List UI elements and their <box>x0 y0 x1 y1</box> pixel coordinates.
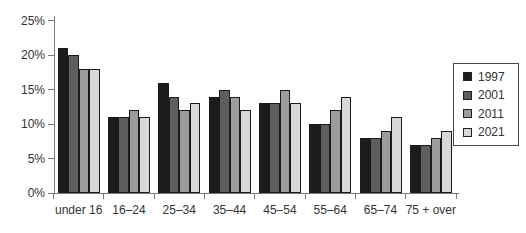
bar <box>89 69 100 193</box>
y-tick-label: 10% <box>8 117 45 131</box>
bar <box>410 145 421 193</box>
bar <box>269 103 280 193</box>
bar-group <box>355 0 405 193</box>
bar <box>370 138 381 193</box>
bar <box>230 97 241 193</box>
y-tick-label: 5% <box>8 152 45 166</box>
x-axis-label: 75 + over <box>396 203 466 217</box>
bar-group <box>54 0 104 193</box>
x-tick <box>254 193 255 199</box>
bar <box>158 83 169 193</box>
bar-group <box>154 0 204 193</box>
legend-item: 2011 <box>463 108 518 120</box>
legend-swatch-icon <box>463 109 472 118</box>
bar <box>290 103 301 193</box>
bar <box>118 117 129 193</box>
bar <box>441 131 452 193</box>
bar <box>309 124 320 193</box>
bar <box>280 90 291 193</box>
y-tick-label: 25% <box>8 14 45 28</box>
bar <box>391 117 402 193</box>
x-tick <box>305 193 306 199</box>
x-tick <box>204 193 205 199</box>
bar <box>190 103 201 193</box>
legend-swatch-icon <box>463 72 472 81</box>
bar <box>79 69 90 193</box>
legend-swatch-icon <box>463 128 472 137</box>
bar-group <box>305 0 355 193</box>
legend-label: 1997 <box>478 71 505 83</box>
legend: 1997200120112021 <box>453 63 519 146</box>
bar <box>431 138 442 193</box>
bar-chart: 0%5%10%15%20%25% under 1616–2425–3435–44… <box>0 0 526 233</box>
bar-group <box>255 0 305 193</box>
bar <box>330 110 341 193</box>
y-tick-label: 20% <box>8 48 45 62</box>
bar <box>381 131 392 193</box>
bar <box>129 110 140 193</box>
y-tick-label: 15% <box>8 83 45 97</box>
bar <box>169 97 180 193</box>
legend-label: 2021 <box>478 126 505 138</box>
bar <box>58 48 69 193</box>
x-tick <box>154 193 155 199</box>
bar <box>341 97 352 193</box>
bar <box>68 55 79 193</box>
bar-group <box>406 0 456 193</box>
bar <box>179 110 190 193</box>
bar <box>108 117 119 193</box>
legend-label: 2011 <box>478 108 504 120</box>
bar-group <box>104 0 154 193</box>
legend-item: 1997 <box>463 71 518 83</box>
y-tick-label: 0% <box>8 186 45 200</box>
bar <box>219 90 230 193</box>
x-tick <box>103 193 104 199</box>
x-tick <box>53 193 54 199</box>
bar-group <box>204 0 254 193</box>
bar <box>420 145 431 193</box>
x-tick <box>355 193 356 199</box>
x-tick <box>405 193 406 199</box>
legend-label: 2001 <box>478 89 505 101</box>
bar <box>360 138 371 193</box>
bar <box>209 97 220 193</box>
legend-swatch-icon <box>463 91 472 100</box>
legend-item: 2001 <box>463 89 518 101</box>
legend-item: 2021 <box>463 126 518 138</box>
bar <box>259 103 270 193</box>
x-tick <box>456 193 457 199</box>
bar <box>320 124 331 193</box>
bar <box>240 110 251 193</box>
bar <box>139 117 150 193</box>
